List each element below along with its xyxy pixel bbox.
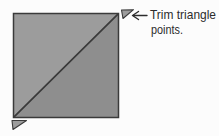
dog-ear-bottom-left <box>12 121 27 130</box>
annotation-line1: Trim triangle <box>150 7 216 22</box>
annotation-line2: points. <box>151 22 183 37</box>
left-arrow-icon <box>133 12 148 20</box>
dog-ear-top-right <box>122 10 134 19</box>
diagram-canvas: Trim triangle points. <box>0 0 219 136</box>
trim-triangle-points-diagram: Trim triangle points. <box>0 0 219 136</box>
